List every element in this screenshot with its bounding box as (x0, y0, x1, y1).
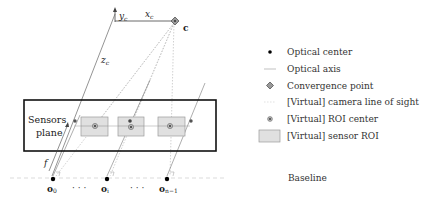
legend-label-roi-center: [Virtual] ROI center (287, 114, 379, 124)
optical-center-label-i: oi (101, 184, 109, 194)
y-axis-arrowhead-icon (113, 7, 117, 12)
optical-centers (51, 177, 169, 181)
legend-label-convergence-point: Convergence point (287, 81, 374, 91)
optical-center-n-1 (165, 177, 169, 181)
sensor-point-right (189, 119, 192, 122)
legend-label-optical-axis: Optical axis (287, 64, 341, 74)
optical-center-label-n-1: on−1 (159, 184, 178, 194)
y-axis-label: yc (118, 11, 128, 22)
z-axis-label: zc (100, 55, 110, 66)
legend-label-line-of-sight: [Virtual] camera line of sight (287, 97, 419, 107)
convergence-point-label: c (183, 23, 189, 33)
legend-label-sensor-roi: [Virtual] sensor ROI (287, 131, 379, 141)
ellipsis-2: · · · (130, 183, 144, 193)
optical-center-i (105, 177, 109, 181)
optical-center-dot-icon (268, 50, 272, 54)
optical-center-label-0: o0 (47, 184, 57, 194)
sensor-point-left (73, 119, 76, 122)
sensors-plane-label-line2: plane (36, 127, 63, 138)
focal-length-label: f (43, 158, 49, 168)
roi-center-icon (167, 123, 172, 128)
sensor-roi-rect-icon (259, 130, 280, 142)
x-axis-label: xc (145, 9, 154, 20)
optical-center-0 (51, 177, 55, 181)
roi-center-icon (92, 123, 97, 128)
camera-array-diagram: yc xc zc Sensors plane (0, 0, 435, 199)
right-angle-marks (56, 172, 174, 176)
legend: Optical center Optical axis Convergence … (259, 47, 419, 142)
convergence-diamond-icon (267, 82, 274, 89)
convergence-point-icon (171, 17, 179, 25)
roi-center-icon (268, 117, 273, 122)
legend-label-optical-center: Optical center (287, 47, 353, 57)
baseline-label: Baseline (288, 173, 327, 183)
ellipsis-1: · · · (72, 183, 86, 193)
sensors-plane-label-line1: Sensors (28, 114, 66, 125)
